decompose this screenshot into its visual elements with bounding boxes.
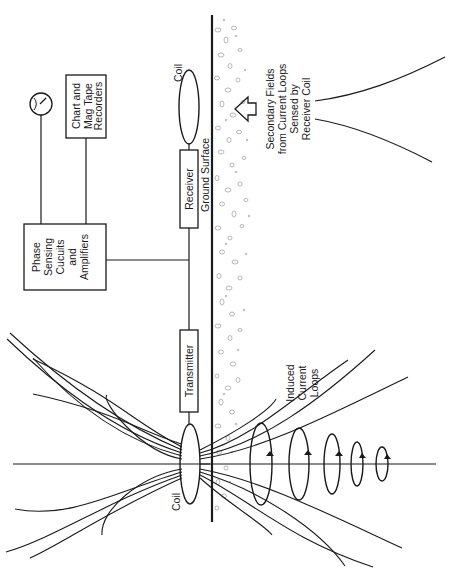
receiver-label: Receiver bbox=[183, 168, 195, 210]
induced-loops-label-1: Induced bbox=[284, 364, 296, 402]
phase-label-4: and bbox=[66, 248, 78, 266]
recorders-label-1: Chart and bbox=[70, 83, 82, 129]
induced-loops-label-3: Loops bbox=[308, 369, 320, 398]
secondary-fields-label-3: Sensed by bbox=[288, 83, 300, 133]
recorders-label-3: Recorders bbox=[92, 82, 104, 130]
transmitter-label: Transmitter bbox=[183, 344, 195, 397]
ground-surface-label: Ground Surface bbox=[199, 138, 211, 212]
secondary-fields-label-1: Secondary Fields bbox=[264, 68, 276, 149]
secondary-field-curves bbox=[315, 57, 445, 162]
ground-gravel-texture bbox=[215, 19, 250, 510]
phase-label-1: Phase bbox=[30, 242, 42, 272]
receiver-coil-label: Coil bbox=[172, 64, 184, 82]
induction-diagram: Ground Surface Chart and Mag Tape Record… bbox=[0, 0, 449, 577]
phase-label-3: Cucuits bbox=[54, 239, 66, 274]
meter-dial-icon bbox=[30, 93, 52, 115]
secondary-field-arrow-icon bbox=[235, 97, 256, 121]
phase-label-5: Amplifiers bbox=[78, 234, 90, 280]
current-direction-arrows bbox=[266, 450, 391, 459]
induced-loops-label-2: Current bbox=[296, 365, 308, 400]
phase-label-2: Sensing bbox=[42, 238, 54, 276]
transmitter-coil-label: Coil bbox=[170, 493, 182, 511]
secondary-fields-label-4: Receiver Coil bbox=[300, 78, 312, 140]
secondary-fields-label-2: from Current Loops bbox=[276, 64, 288, 154]
